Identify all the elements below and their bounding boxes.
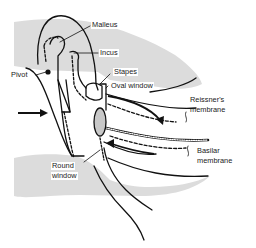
- lower-channel-right: [104, 148, 152, 210]
- label-pivot: Pivot: [10, 71, 28, 79]
- label-reissners-membrane-2: membrane: [190, 106, 225, 114]
- scala-vestibuli-upper: [106, 94, 196, 108]
- round-window-membrane: [94, 108, 106, 136]
- label-basilar-membrane-2: membrane: [197, 157, 232, 165]
- label-malleus: Malleus: [91, 21, 118, 29]
- fluid-flow-arrow-icon: [108, 96, 164, 125]
- label-oval-window: Oval window: [110, 82, 154, 90]
- leader-basilar: [187, 146, 188, 156]
- leader-pivot: [36, 72, 46, 75]
- label-incus: Incus: [99, 49, 119, 57]
- label-round-window-1: Round: [51, 162, 75, 170]
- oval-window-frame: [100, 84, 106, 110]
- input-arrow-icon: [18, 109, 48, 117]
- round-window-dashed: [100, 138, 104, 160]
- leader-reissners: [185, 112, 186, 122]
- label-stapes: Stapes: [113, 68, 138, 76]
- ear-mechanics-diagram: [0, 0, 256, 248]
- leader-round-window: [84, 150, 100, 162]
- label-round-window-2: window: [51, 172, 78, 180]
- pivot-point: [45, 69, 50, 74]
- label-reissners-membrane-1: Reissner's: [190, 96, 224, 104]
- label-basilar-membrane-1: Basilar: [197, 147, 220, 155]
- basilar-membrane-line: [106, 128, 208, 140]
- scala-outer-lower: [108, 158, 208, 176]
- stapes-shape: [86, 83, 102, 100]
